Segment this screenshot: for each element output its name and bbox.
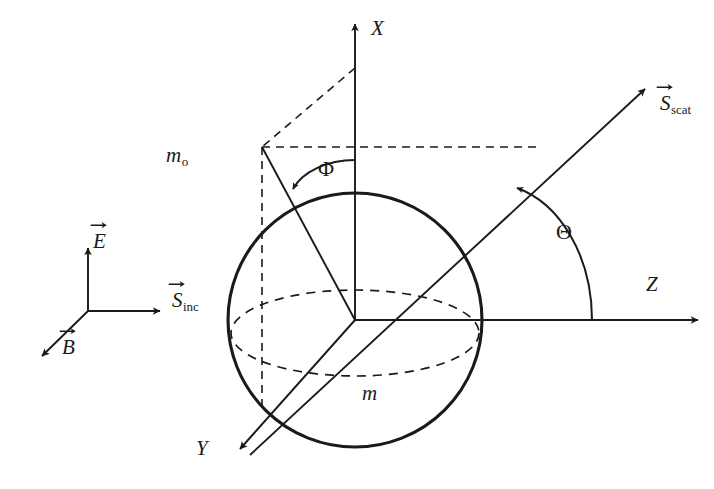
y-axis-line — [240, 320, 355, 449]
s-inc-vector-subscript: inc — [183, 299, 199, 314]
y-axis-label: Y — [196, 438, 208, 459]
e-vector-symbol: E — [93, 229, 106, 253]
b-vector-label: B — [62, 337, 75, 358]
surrounding-medium-symbol: m — [166, 143, 181, 167]
incident-field-triad — [42, 248, 160, 356]
phi-angle-label: Φ — [318, 158, 334, 180]
sphere-medium-symbol: m — [362, 381, 377, 405]
s-inc-vector-label: Sinc — [172, 290, 198, 311]
surrounding-medium-label: mo — [166, 145, 188, 166]
s-scat-vector-symbol: S — [660, 91, 671, 115]
surrounding-medium-subscript: o — [182, 154, 189, 169]
construction-diagonal-upper — [262, 68, 355, 147]
theta-angle-arc — [517, 188, 592, 320]
z-axis-label: Z — [646, 274, 658, 295]
b-vector-symbol: B — [62, 335, 75, 359]
theta-angle-label: Θ — [556, 221, 572, 243]
figure-canvas: X Y Z Φ Θ mo m E B Sinc Sscat — [0, 0, 714, 489]
s-inc-vector-symbol: S — [172, 288, 183, 312]
sphere-medium-label: m — [362, 383, 377, 404]
construction-lines — [262, 68, 540, 410]
s-scat-vector-subscript: scat — [671, 102, 691, 117]
s-scat-vector-label: Sscat — [660, 93, 691, 114]
x-axis-label: X — [371, 18, 384, 39]
scattering-geometry-diagram — [0, 0, 714, 489]
e-vector-label: E — [93, 231, 106, 252]
